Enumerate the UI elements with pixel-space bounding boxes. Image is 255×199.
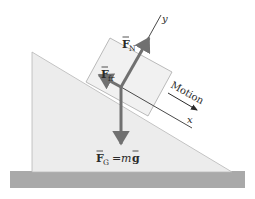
x-axis-label: x xyxy=(187,114,193,125)
y-axis-label: y xyxy=(161,13,168,24)
gravity-mass: m xyxy=(121,152,131,165)
gravity-g: g xyxy=(132,152,140,165)
normal-force-subscript: N xyxy=(129,44,136,53)
ground xyxy=(10,171,245,188)
gravity-force-label: F G = m g xyxy=(96,151,140,167)
normal-force-label: F N xyxy=(122,37,136,53)
friction-force-subscript: fr xyxy=(108,74,115,83)
motion-label: Motion xyxy=(169,79,206,106)
gravity-force-subscript: G xyxy=(103,158,109,167)
incline-diagram: F N F fr F G = m g y x Motion xyxy=(0,0,255,199)
gravity-equals: = xyxy=(112,152,121,165)
